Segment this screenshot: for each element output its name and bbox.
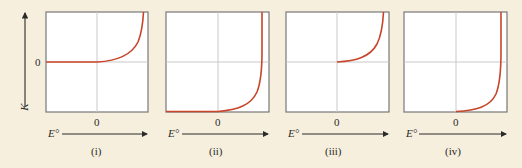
x-zero-label-iv: 0 <box>453 117 459 128</box>
x-axis-label-ii: E° <box>168 128 179 139</box>
caption-ii: (ii) <box>209 145 222 157</box>
x-axis-label-iv: E° <box>406 128 417 139</box>
panel-iv <box>404 12 507 112</box>
y-axis-label: K <box>18 103 30 110</box>
caption-i: (i) <box>91 145 101 157</box>
figure: K 0 0 E° (i) 0 E° (ii) 0 E° (iii) 0 E° (… <box>0 0 522 168</box>
x-axis-label-i: E° <box>48 128 59 139</box>
x-zero-label-ii: 0 <box>215 117 221 128</box>
panel-iii <box>286 12 389 112</box>
caption-iv: (iv) <box>445 145 461 157</box>
plots-svg <box>0 0 522 168</box>
x-zero-label-i: 0 <box>94 117 100 128</box>
panel-i <box>46 12 148 112</box>
caption-iii: (iii) <box>325 145 342 157</box>
x-zero-label-iii: 0 <box>334 117 340 128</box>
y-zero-label: 0 <box>35 57 41 68</box>
panel-ii <box>166 12 269 112</box>
x-axis-label-iii: E° <box>288 128 299 139</box>
